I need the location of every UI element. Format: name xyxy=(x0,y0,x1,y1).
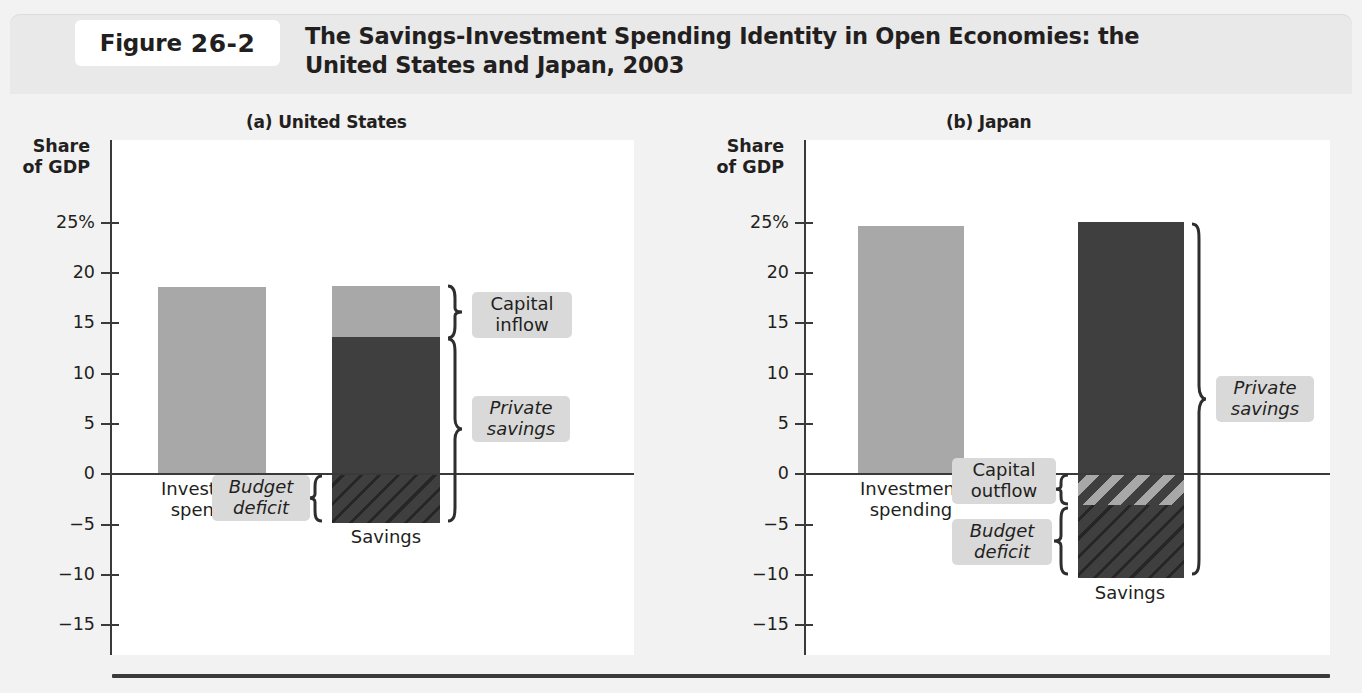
callout-budget-deficit-us: Budget deficit xyxy=(212,475,310,521)
tick-label-a-neg10: −10 xyxy=(20,564,95,584)
panel-caption-united-states: (a) United States xyxy=(246,112,407,132)
bar-investment-spending-japan xyxy=(858,226,964,474)
tick-label-a-0: 0 xyxy=(20,463,95,483)
tick-mark-a-15 xyxy=(101,322,119,324)
figure-number: 26-2 xyxy=(191,29,256,58)
bar-segment-budget-deficit-japan xyxy=(1078,505,1184,578)
tick-mark-a-5 xyxy=(101,423,119,425)
bar-segment-private-savings-us xyxy=(332,337,440,474)
tick-label-a-25: 25% xyxy=(20,212,95,232)
tick-label-b-15: 15 xyxy=(714,312,789,332)
bar-caption-savings-us: Savings xyxy=(316,527,456,548)
tick-label-b-20: 20 xyxy=(714,262,789,282)
tick-mark-a-10 xyxy=(101,373,119,375)
zero-line-a xyxy=(112,473,634,475)
tick-mark-b-neg15 xyxy=(795,624,813,626)
bar-investment-spending-us xyxy=(158,287,266,474)
tick-label-a-5: 5 xyxy=(20,413,95,433)
tick-mark-a-neg10 xyxy=(101,574,119,576)
bar-segment-budget-deficit-us xyxy=(332,474,440,523)
brace-budget-deficit-japan xyxy=(1050,506,1072,580)
tick-mark-b-5 xyxy=(795,423,813,425)
panel-caption-japan: (b) Japan xyxy=(946,112,1031,132)
tick-label-a-10: 10 xyxy=(20,363,95,383)
tick-mark-b-15 xyxy=(795,322,813,324)
tick-mark-a-neg15 xyxy=(101,624,119,626)
figure-bottom-rule xyxy=(112,674,1330,678)
brace-private-savings-us xyxy=(444,337,466,525)
tick-label-a-neg15: −15 xyxy=(20,614,95,634)
tick-label-b-neg10: −10 xyxy=(714,564,789,584)
tick-mark-b-neg5 xyxy=(795,524,813,526)
tick-mark-a-neg5 xyxy=(101,524,119,526)
tick-label-a-15: 15 xyxy=(20,312,95,332)
figure-title: The Savings-Investment Spending Identity… xyxy=(305,22,1205,79)
bar-segment-capital-outflow-japan xyxy=(1078,474,1184,505)
figure-label-word: Figure xyxy=(100,30,182,56)
tick-label-b-10: 10 xyxy=(714,363,789,383)
callout-private-savings-japan: Private savings xyxy=(1216,376,1314,422)
brace-capital-inflow-us xyxy=(444,284,466,340)
tick-mark-b-10 xyxy=(795,373,813,375)
tick-mark-a-20 xyxy=(101,272,119,274)
y-axis-title-b: Share of GDP xyxy=(712,136,784,177)
tick-mark-b-neg10 xyxy=(795,574,813,576)
y-axis-line-a xyxy=(110,140,112,655)
callout-budget-deficit-japan: Budget deficit xyxy=(952,519,1052,565)
tick-label-b-5: 5 xyxy=(714,413,789,433)
callout-capital-outflow-japan: Capital outflow xyxy=(952,458,1056,504)
brace-private-savings-japan xyxy=(1188,222,1210,580)
figure-page: Figure 26-2 The Savings-Investment Spend… xyxy=(0,0,1362,693)
tick-label-b-neg5: −5 xyxy=(714,514,789,534)
tick-label-b-0: 0 xyxy=(714,463,789,483)
bar-segment-capital-inflow-us xyxy=(332,286,440,337)
bar-segment-private-savings-japan xyxy=(1078,222,1184,474)
bar-caption-savings-japan: Savings xyxy=(1060,583,1200,604)
y-axis-title-a: Share of GDP xyxy=(18,136,90,177)
callout-capital-inflow-us: Capital inflow xyxy=(472,292,572,338)
tick-label-a-20: 20 xyxy=(20,262,95,282)
tick-label-a-neg5: −5 xyxy=(20,514,95,534)
callout-private-savings-us: Private savings xyxy=(472,396,570,442)
tick-label-b-neg15: −15 xyxy=(714,614,789,634)
tick-label-b-25: 25% xyxy=(714,212,789,232)
tick-mark-b-20 xyxy=(795,272,813,274)
y-axis-line-b xyxy=(804,140,806,655)
figure-number-tab-content: Figure 26-2 xyxy=(75,20,280,66)
tick-mark-a-25 xyxy=(101,222,119,224)
tick-mark-b-25 xyxy=(795,222,813,224)
